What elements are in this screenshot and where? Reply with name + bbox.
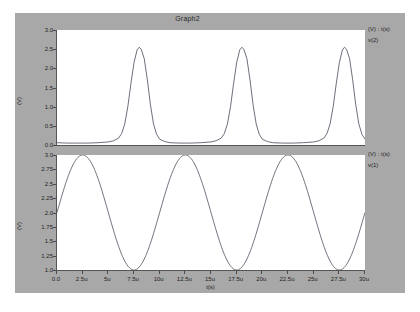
x-axis-tick-label: 25u: [308, 276, 318, 282]
legend-bottom: (V) : t(s) v(1): [368, 149, 405, 172]
y-axis-tick-label: 0.5: [45, 123, 53, 129]
y-axis-tick-label: 2.0: [45, 210, 53, 216]
x-axis-tick-mark: [159, 271, 160, 274]
y-axis-tick-label: 2.0: [45, 65, 53, 71]
y-axis-title-bottom: (V): [16, 222, 22, 230]
y-axis-tick-label: 2.75: [41, 166, 53, 172]
legend-trace-label-v2[interactable]: v(2): [368, 35, 405, 46]
x-axis-tick-label: 22.5u: [279, 276, 294, 282]
x-axis-tick-label: 0.0: [52, 276, 60, 282]
waveform-trace-v1: [57, 155, 365, 270]
y-axis-tick-label: 1.5: [45, 85, 53, 91]
y-axis-tick-label: 2.5: [45, 46, 53, 52]
x-axis-tick-mark: [56, 271, 57, 274]
y-axis-tick-label: 2.5: [45, 181, 53, 187]
legend-axis-label-bottom: (V) : t(s): [368, 149, 405, 160]
x-axis-tick-label: 27.5u: [331, 276, 346, 282]
x-axis-tick-label: 17.5u: [228, 276, 243, 282]
y-axis-tick-label: 2.25: [41, 195, 53, 201]
x-axis-tick-mark: [184, 271, 185, 274]
legend-trace-label-v1[interactable]: v(1): [368, 160, 405, 171]
x-axis-tick-label: 20u: [256, 276, 266, 282]
graph-title: Graph2: [15, 15, 360, 22]
legend-top: (V) : t(s) v(2): [368, 24, 405, 47]
x-axis-tick-mark: [261, 271, 262, 274]
x-axis-tick-label: 10u: [154, 276, 164, 282]
y-axis-top: 3.02.52.01.51.00.50.0: [15, 30, 56, 146]
x-axis-tick-mark: [133, 271, 134, 274]
x-axis-tick-label: 15u: [205, 276, 215, 282]
y-axis-tick-label: 3.0: [45, 27, 53, 33]
y-axis-tick-label: 1.5: [45, 238, 53, 244]
y-axis-tick-label: 3.0: [45, 152, 53, 158]
x-axis-tick-mark: [82, 271, 83, 274]
graph-window: Graph2 3.02.52.01.51.00.50.0 (V) (V) : t…: [15, 13, 405, 293]
x-axis-tick-mark: [338, 271, 339, 274]
y-axis-tick-label: 1.0: [45, 104, 53, 110]
x-axis-tick-label: 12.5u: [177, 276, 192, 282]
x-axis-tick-mark: [364, 271, 365, 274]
y-axis-tick-label: 1.25: [41, 253, 53, 259]
y-axis-tick-label: 0.0: [45, 142, 53, 148]
x-axis-tick-label: 5u: [104, 276, 111, 282]
x-axis: t(s) 0.02.5u5u7.5u10u12.5u15u17.5u20u22.…: [56, 271, 365, 293]
x-axis-tick-mark: [107, 271, 108, 274]
plot-area-bottom[interactable]: [56, 155, 365, 271]
x-axis-tick-label: 30u: [359, 276, 369, 282]
waveform-trace-v2: [57, 30, 365, 145]
x-axis-title: t(s): [56, 284, 365, 290]
legend-axis-label-top: (V) : t(s): [368, 24, 405, 35]
x-axis-tick-mark: [287, 271, 288, 274]
x-axis-tick-mark: [210, 271, 211, 274]
plot-area-top[interactable]: [56, 30, 365, 146]
x-axis-tick-mark: [313, 271, 314, 274]
x-axis-tick-mark: [236, 271, 237, 274]
x-axis-tick-label: 2.5u: [76, 276, 88, 282]
y-axis-title-top: (V): [16, 97, 22, 105]
y-axis-tick-label: 1.0: [45, 267, 53, 273]
y-axis-bottom: 3.02.752.52.252.01.751.51.251.0: [15, 155, 56, 271]
x-axis-tick-label: 7.5u: [127, 276, 139, 282]
y-axis-tick-label: 1.75: [41, 224, 53, 230]
